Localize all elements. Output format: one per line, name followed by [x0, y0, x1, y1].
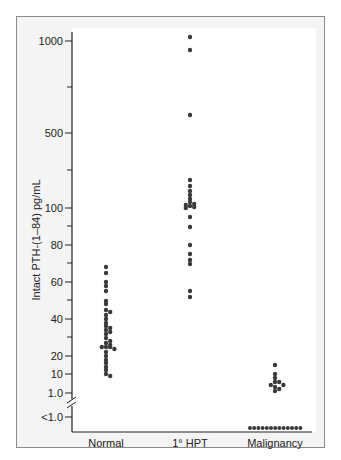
dot-plot-chart: 100050010080604020101.0<1.0 Intact PTH-(… — [0, 0, 341, 460]
x-label-hpt: 1° HPT — [172, 437, 208, 449]
svg-text:40: 40 — [51, 313, 63, 325]
svg-text:1.0: 1.0 — [48, 387, 63, 399]
svg-text:20: 20 — [51, 350, 63, 362]
svg-text:10: 10 — [51, 368, 63, 380]
svg-text:1000: 1000 — [39, 35, 63, 47]
y-axis-label: Intact PTH-(1–84) pg/mL — [30, 179, 42, 300]
svg-text:<1.0: <1.0 — [41, 411, 63, 423]
data-points — [100, 35, 303, 430]
x-label-normal: Normal — [88, 437, 123, 449]
svg-text:500: 500 — [45, 127, 63, 139]
svg-text:100: 100 — [45, 202, 63, 214]
y-ticks: 100050010080604020101.0<1.0 — [39, 35, 72, 423]
x-label-malignancy: Malignancy — [247, 437, 303, 449]
svg-text:80: 80 — [51, 239, 63, 251]
svg-text:60: 60 — [51, 276, 63, 288]
